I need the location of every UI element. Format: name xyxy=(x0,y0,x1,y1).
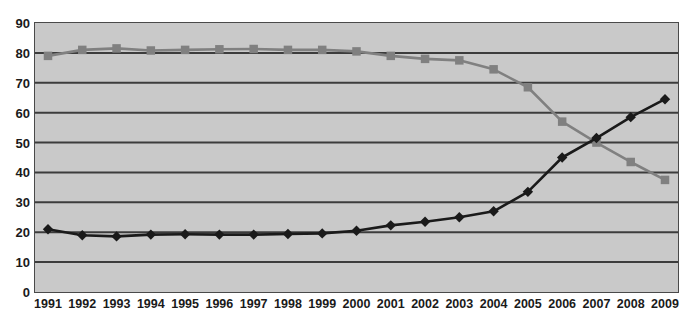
data-point-marker xyxy=(420,217,430,227)
data-point-marker xyxy=(112,44,121,53)
data-point-marker xyxy=(455,56,464,65)
data-point-marker xyxy=(421,55,430,64)
series-line xyxy=(48,48,665,180)
data-point-marker xyxy=(180,229,190,239)
data-point-marker xyxy=(386,220,396,230)
data-point-marker xyxy=(317,228,327,238)
series-diamonds xyxy=(43,94,670,242)
y-axis-tick-label: 40 xyxy=(4,166,30,179)
y-axis-tick-label: 50 xyxy=(4,136,30,149)
data-point-marker xyxy=(283,229,293,239)
data-point-marker xyxy=(626,158,635,167)
data-point-marker xyxy=(146,229,156,239)
data-point-marker xyxy=(352,47,361,56)
data-point-marker xyxy=(44,52,53,61)
data-point-marker xyxy=(248,229,258,239)
data-point-marker xyxy=(454,212,464,222)
series-squares xyxy=(44,44,670,184)
data-point-marker xyxy=(524,83,533,92)
x-axis: 1991199219931994199519961997199819992000… xyxy=(34,297,679,319)
plot-area xyxy=(34,22,679,293)
y-axis-tick-label: 60 xyxy=(4,106,30,119)
y-axis-tick-label: 10 xyxy=(4,256,30,269)
y-axis-tick-label: 30 xyxy=(4,196,30,209)
data-point-marker xyxy=(78,46,87,55)
y-axis-tick-label: 90 xyxy=(4,17,30,30)
x-axis-tick-label: 2009 xyxy=(643,297,687,312)
data-point-marker xyxy=(318,46,327,55)
y-axis: 0102030405060708090 xyxy=(0,0,30,324)
data-point-marker xyxy=(387,52,396,61)
data-point-marker xyxy=(351,226,361,236)
data-point-marker xyxy=(488,206,498,216)
data-point-marker xyxy=(558,117,567,126)
data-point-marker xyxy=(249,45,258,54)
series-line xyxy=(48,99,665,236)
data-point-marker xyxy=(215,45,224,54)
data-point-marker xyxy=(284,46,293,55)
y-axis-tick-label: 70 xyxy=(4,76,30,89)
y-axis-tick-label: 20 xyxy=(4,226,30,239)
data-point-marker xyxy=(181,46,190,55)
data-point-marker xyxy=(661,176,670,185)
data-point-marker xyxy=(489,65,498,74)
data-point-marker xyxy=(214,229,224,239)
data-point-marker xyxy=(660,94,670,104)
line-chart: 0102030405060708090 19911992199319941995… xyxy=(0,0,693,324)
plot-svg xyxy=(35,23,678,292)
y-axis-tick-label: 80 xyxy=(4,46,30,59)
data-point-marker xyxy=(147,46,156,55)
